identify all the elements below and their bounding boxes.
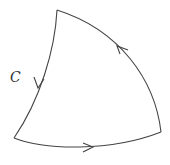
curve-label: C xyxy=(10,70,21,84)
arrow-down-icon xyxy=(34,77,44,88)
closed-curve-diagram xyxy=(0,0,170,165)
right-arc xyxy=(57,10,161,132)
arrow-right-icon xyxy=(83,143,93,152)
